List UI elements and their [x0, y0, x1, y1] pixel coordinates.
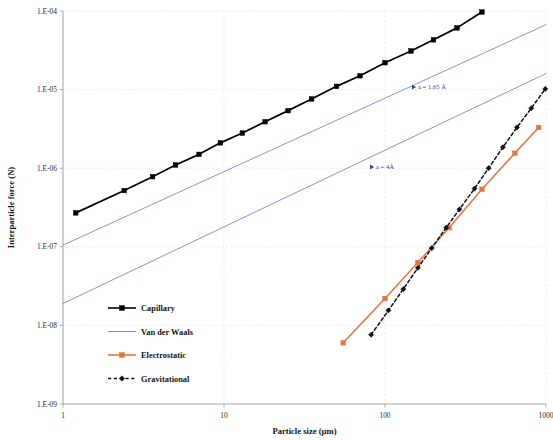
y-axis-title: Interparticle force (N): [6, 167, 16, 249]
y-tick-label: 1.E-04: [37, 7, 57, 16]
data-point-marker: [122, 188, 127, 193]
y-tick-label: 1.E-09: [37, 400, 57, 409]
legend-group: CapillaryVan der WaalsElectrostaticGravi…: [108, 304, 194, 384]
data-point-marker: [409, 49, 414, 54]
y-tick-label: 1.E-05: [37, 85, 57, 94]
legend-label: Gravitational: [141, 375, 190, 384]
data-point-marker: [358, 73, 363, 78]
data-point-marker: [383, 60, 388, 65]
axes-group: [60, 11, 547, 408]
x-tick-label: 10: [220, 411, 228, 420]
data-point-marker: [263, 119, 268, 124]
data-point-marker: [431, 38, 436, 43]
data-point-marker: [383, 296, 388, 301]
data-point-marker: [341, 341, 346, 346]
data-point-marker: [480, 187, 485, 192]
series-group: [63, 10, 548, 345]
data-point-marker: [120, 353, 125, 358]
data-point-marker: [309, 97, 314, 102]
annotation-label: a = 4Å: [376, 163, 394, 170]
data-point-marker: [286, 108, 291, 113]
y-tick-label: 1.E-07: [37, 242, 57, 251]
y-tick-label: 1.E-06: [37, 164, 57, 173]
data-point-marker: [480, 10, 485, 15]
axis-titles-group: Particle size (µm)Interparticle force (N…: [6, 167, 337, 436]
data-point-marker: [334, 84, 339, 89]
x-tick-label: 1: [61, 411, 65, 420]
data-point-marker: [197, 152, 202, 157]
data-point-marker: [150, 174, 155, 179]
legend-label: Capillary: [141, 304, 176, 313]
data-point-marker: [416, 260, 421, 265]
tick-labels-group: 1.E-041.E-051.E-061.E-071.E-081.E-091101…: [37, 7, 553, 420]
triangle-right-icon: [370, 164, 374, 169]
series-line-van-der-waals: [63, 25, 546, 245]
data-point-marker: [240, 131, 245, 136]
x-tick-label: 100: [379, 411, 390, 420]
annotation-label: a = 1.65 Å: [418, 83, 446, 90]
chart-figure: 1.E-041.E-051.E-061.E-071.E-081.E-091101…: [0, 0, 553, 440]
data-point-marker: [173, 163, 178, 168]
x-axis-title: Particle size (µm): [272, 426, 336, 436]
gridlines-group: [63, 11, 546, 404]
legend-label: Electrostatic: [141, 351, 186, 360]
data-point-marker: [512, 151, 517, 156]
chart-canvas: 1.E-041.E-051.E-061.E-071.E-081.E-091101…: [0, 0, 553, 440]
data-point-marker: [536, 125, 541, 130]
data-point-marker: [73, 211, 78, 216]
data-point-marker: [455, 26, 460, 31]
data-point-marker: [218, 141, 223, 146]
data-point-marker: [120, 306, 125, 311]
series-line-capillary: [76, 12, 482, 213]
y-tick-label: 1.E-08: [37, 321, 57, 330]
series-line-gravitational: [371, 89, 545, 335]
x-tick-label: 1000: [539, 411, 553, 420]
data-point-marker: [119, 376, 124, 381]
legend-label: Van der Waals: [141, 328, 194, 337]
